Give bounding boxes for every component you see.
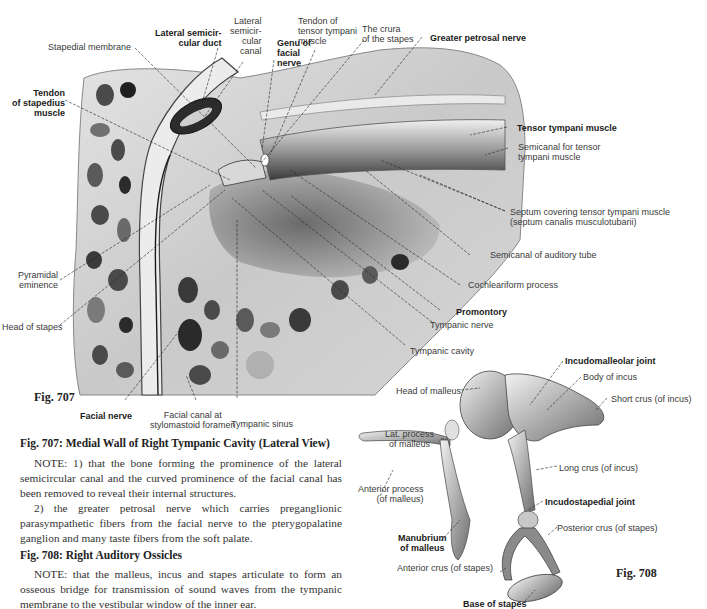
label-body-of-incus: Body of incus bbox=[583, 372, 637, 382]
label-lat-process-malleus: Lat. process of malleus bbox=[385, 429, 434, 449]
label-head-of-malleus: Head of malleus bbox=[396, 386, 461, 396]
fig707-note-2: 2) the greater petrosal nerve which carr… bbox=[20, 501, 342, 546]
body-of-incus bbox=[505, 374, 604, 441]
label-cochleariform-process: Cochleariform process bbox=[468, 280, 558, 290]
fig708-note-1: NOTE: that the malleus, incus and stapes… bbox=[20, 567, 342, 609]
label-tensor-tympani-muscle: Tensor tympani muscle bbox=[517, 123, 617, 133]
label-pyramidal-eminence: Pyramidal eminence bbox=[18, 270, 58, 290]
label-incudostapedial-joint: Incudostapedial joint bbox=[545, 497, 635, 507]
label-lateral-semicircular-canal: Lateral semicir- cular canal bbox=[230, 16, 262, 56]
label-facial-nerve: Facial nerve bbox=[80, 411, 132, 421]
label-anterior-process-malleus: Anterior process (of malleus) bbox=[358, 484, 424, 504]
label-long-crus-incus: Long crus (of incus) bbox=[559, 463, 638, 473]
label-head-of-stapes: Head of stapes bbox=[2, 322, 63, 332]
fig707-notes: NOTE: 1) that the bone forming the promi… bbox=[20, 456, 342, 546]
label-septum: Septum covering tensor tympani muscle (s… bbox=[510, 207, 670, 227]
fig708-notes: NOTE: that the malleus, incus and stapes… bbox=[20, 567, 342, 609]
label-incudomalleolar-joint: Incudomalleolar joint bbox=[565, 356, 656, 366]
label-tympanic-cavity: Tympanic cavity bbox=[410, 346, 474, 356]
label-tendon-tensor-tympani: Tendon of tensor tympani muscle bbox=[298, 16, 357, 46]
label-tympanic-sinus: Tympanic sinus bbox=[231, 419, 293, 429]
label-anterior-crus-stapes: Anterior crus (of stapes) bbox=[397, 563, 493, 573]
label-promontory: Promontory bbox=[456, 307, 507, 317]
label-semicanal-tensor-tympani: Semicanal for tensor tympani muscle bbox=[518, 142, 601, 162]
stapes-arch bbox=[502, 528, 560, 580]
label-short-crus-incus: Short crus (of incus) bbox=[611, 394, 692, 404]
label-posterior-crus-stapes: Posterior crus (of stapes) bbox=[557, 523, 658, 533]
fig708-number: Fig. 708 bbox=[616, 566, 657, 581]
label-manubrium-malleus: Manubrium of malleus bbox=[398, 533, 447, 553]
label-stapedial-membrane: Stapedial membrane bbox=[48, 42, 131, 52]
label-tympanic-nerve: Tympanic nerve bbox=[430, 320, 494, 330]
label-semicanal-auditory-tube: Semicanal of auditory tube bbox=[490, 250, 597, 260]
label-crura-of-stapes: The crura of the stapes bbox=[362, 24, 414, 44]
label-lateral-semicircular-duct: Lateral semicir- cular duct bbox=[155, 28, 222, 48]
fig708-caption: Fig. 708: Right Auditory Ossicles bbox=[20, 549, 182, 561]
label-facial-canal-stylomastoid: Facial canal at stylomastoid foramen bbox=[150, 410, 236, 430]
label-base-of-stapes: Base of stapes bbox=[463, 599, 527, 609]
fig707-note-1: NOTE: 1) that the bone forming the promi… bbox=[20, 456, 342, 501]
fig707-caption: Fig. 707: Medial Wall of Right Tympanic … bbox=[20, 437, 330, 449]
fig707-number: Fig. 707 bbox=[34, 390, 75, 405]
label-tendon-stapedius: Tendon of stapedius muscle bbox=[12, 88, 65, 118]
label-greater-petrosal-nerve: Greater petrosal nerve bbox=[430, 33, 526, 43]
